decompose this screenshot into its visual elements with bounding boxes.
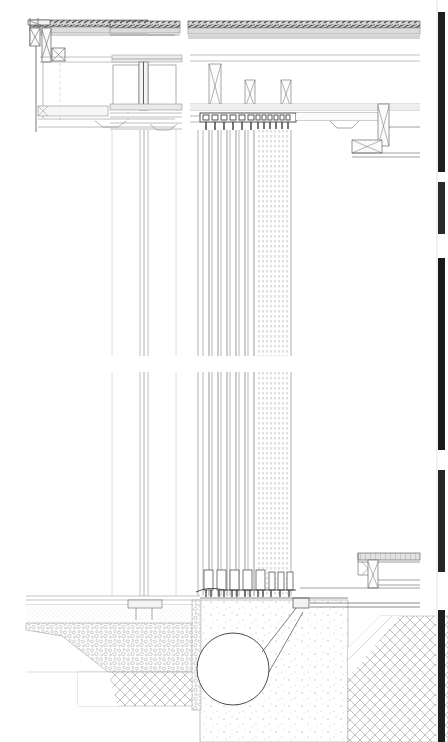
drain-inlet-box bbox=[293, 598, 309, 608]
mullion-base-plate bbox=[128, 600, 162, 608]
drain-pipe bbox=[197, 633, 269, 705]
drawing-canvas: Curtain Wall / Cable Facade Vertical Sec… bbox=[0, 0, 448, 742]
roof-band-mid bbox=[110, 21, 180, 35]
mullion-head-detail bbox=[113, 62, 176, 110]
architectural-section-svg bbox=[0, 0, 448, 742]
right-margin-bars bbox=[436, 0, 445, 742]
screed-layer-left bbox=[26, 605, 200, 623]
